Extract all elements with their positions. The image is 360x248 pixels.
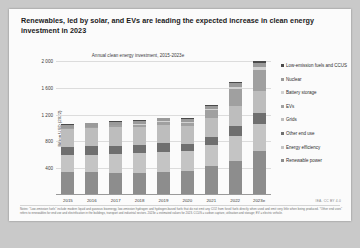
legend-item-label: Grids bbox=[286, 117, 297, 122]
legend-item[interactable]: Other end use bbox=[281, 131, 349, 136]
y-axis-tick: 1 600 bbox=[42, 85, 54, 90]
chart-subtitle: Annual clean energy investment, 2015-202… bbox=[9, 53, 351, 58]
bar-segment[interactable] bbox=[253, 70, 266, 91]
bar-group: 201520162017201820192020202120222023e bbox=[56, 61, 271, 195]
legend-item-label: EVs bbox=[286, 104, 294, 109]
bar-segment[interactable] bbox=[253, 151, 266, 195]
page-title: Renewables, led by solar, and EVs are le… bbox=[21, 16, 331, 36]
bar-column[interactable]: 2016 bbox=[80, 61, 104, 195]
presentation-slide: Renewables, led by solar, and EVs are le… bbox=[9, 9, 351, 221]
bar-column[interactable]: 2017 bbox=[104, 61, 128, 195]
bar-segment[interactable] bbox=[109, 146, 122, 154]
bar-column[interactable]: 2015 bbox=[56, 61, 80, 195]
legend-item[interactable]: Grids bbox=[281, 117, 349, 122]
bar-segment[interactable] bbox=[157, 152, 170, 172]
stacked-bar[interactable] bbox=[229, 82, 242, 195]
bar-segment[interactable] bbox=[109, 173, 122, 195]
y-axis-tick: 400 bbox=[45, 166, 53, 171]
bar-segment[interactable] bbox=[253, 91, 266, 113]
x-axis-tick: 2016 bbox=[87, 198, 97, 203]
notes-divider bbox=[20, 205, 340, 206]
bar-segment[interactable] bbox=[61, 172, 74, 195]
bar-segment[interactable] bbox=[205, 118, 218, 137]
legend-swatch-icon bbox=[281, 146, 284, 149]
bar-segment[interactable] bbox=[85, 128, 98, 146]
legend-item[interactable]: Renewable power bbox=[281, 158, 349, 163]
bar-column[interactable]: 2022 bbox=[223, 61, 247, 195]
stacked-bar[interactable] bbox=[157, 118, 170, 195]
chart-notes: Notes: "Low-emission fuels" include mode… bbox=[20, 208, 342, 216]
x-axis-tick: 2019 bbox=[159, 198, 169, 203]
stacked-bar[interactable] bbox=[205, 105, 218, 195]
bar-segment[interactable] bbox=[205, 166, 218, 195]
bar-column[interactable]: 2018 bbox=[128, 61, 152, 195]
legend-item[interactable]: Low-emission fuels and CCUS bbox=[281, 63, 349, 68]
y-axis-tick: 2 000 bbox=[42, 59, 54, 64]
bar-segment[interactable] bbox=[205, 110, 218, 117]
bar-segment[interactable] bbox=[229, 126, 242, 136]
x-axis-tick: 2015 bbox=[63, 198, 73, 203]
bar-segment[interactable] bbox=[133, 153, 146, 172]
legend-item-label: Battery storage bbox=[286, 90, 317, 95]
bar-segment[interactable] bbox=[253, 113, 266, 124]
x-axis-tick: 2022 bbox=[230, 198, 240, 203]
stacked-bar[interactable] bbox=[61, 124, 74, 195]
bar-segment[interactable] bbox=[229, 106, 242, 126]
legend-item[interactable]: EVs bbox=[281, 104, 349, 109]
bar-segment[interactable] bbox=[85, 172, 98, 195]
stacked-bar[interactable] bbox=[181, 118, 194, 195]
chart-plot-area: 4008001 2001 6002 000 201520162017201820… bbox=[56, 61, 271, 195]
bar-segment[interactable] bbox=[157, 125, 170, 143]
legend-item-label: Renewable power bbox=[286, 158, 322, 163]
bar-segment[interactable] bbox=[229, 161, 242, 195]
legend-item-label: Other end use bbox=[286, 131, 315, 136]
bar-segment[interactable] bbox=[157, 172, 170, 195]
stacked-bar[interactable] bbox=[109, 121, 122, 195]
bar-segment[interactable] bbox=[157, 143, 170, 151]
legend-swatch-icon bbox=[281, 132, 284, 135]
bar-column[interactable]: 2019 bbox=[152, 61, 176, 195]
x-axis-tick: 2020 bbox=[182, 198, 192, 203]
legend-swatch-icon bbox=[281, 105, 284, 108]
bar-segment[interactable] bbox=[133, 173, 146, 195]
x-axis-tick: 2017 bbox=[111, 198, 121, 203]
bar-column[interactable]: 2020 bbox=[175, 61, 199, 195]
x-axis-line bbox=[56, 194, 271, 195]
bar-segment[interactable] bbox=[181, 151, 194, 170]
bar-segment[interactable] bbox=[181, 126, 194, 144]
bar-segment[interactable] bbox=[133, 127, 146, 145]
legend-swatch-icon bbox=[281, 118, 284, 121]
bar-segment[interactable] bbox=[61, 147, 74, 155]
legend-item[interactable]: Battery storage bbox=[281, 90, 349, 95]
legend-swatch-icon bbox=[281, 91, 284, 94]
bar-segment[interactable] bbox=[133, 145, 146, 153]
bar-segment[interactable] bbox=[61, 129, 74, 147]
bar-segment[interactable] bbox=[181, 144, 194, 151]
stacked-bar[interactable] bbox=[253, 61, 266, 195]
bar-segment[interactable] bbox=[253, 124, 266, 151]
legend-item-label: Nuclear bbox=[286, 77, 302, 82]
iea-credit: IEA. CC BY 4.0 bbox=[316, 199, 341, 203]
bar-segment[interactable] bbox=[229, 136, 242, 161]
bar-segment[interactable] bbox=[205, 145, 218, 166]
legend-item[interactable]: Energy efficiency bbox=[281, 145, 349, 150]
y-axis-tick: 1 200 bbox=[42, 112, 54, 117]
bar-column[interactable]: 2023e bbox=[247, 61, 271, 195]
stacked-bar[interactable] bbox=[85, 123, 98, 195]
bar-column[interactable]: 2021 bbox=[199, 61, 223, 195]
bar-segment[interactable] bbox=[109, 127, 122, 146]
bar-segment[interactable] bbox=[109, 154, 122, 172]
bar-segment[interactable] bbox=[85, 155, 98, 172]
bar-segment[interactable] bbox=[205, 137, 218, 145]
chart-subtitle-text: Annual clean energy investment, 2015-202… bbox=[92, 53, 184, 58]
legend-item-label: Energy efficiency bbox=[286, 145, 320, 150]
bar-segment[interactable] bbox=[229, 89, 242, 106]
bar-segment[interactable] bbox=[61, 155, 74, 172]
screenshot-page: Renewables, led by solar, and EVs are le… bbox=[0, 0, 360, 248]
x-axis-tick: 2018 bbox=[135, 198, 145, 203]
chart-legend: Low-emission fuels and CCUSNuclearBatter… bbox=[281, 63, 349, 172]
bar-segment[interactable] bbox=[181, 171, 194, 195]
stacked-bar[interactable] bbox=[133, 120, 146, 195]
legend-item[interactable]: Nuclear bbox=[281, 77, 349, 82]
bar-segment[interactable] bbox=[85, 146, 98, 154]
